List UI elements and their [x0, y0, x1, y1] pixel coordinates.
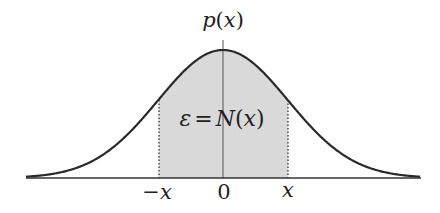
tick-label-neg-x: −x — [142, 180, 172, 204]
y-axis-label: p(x) — [202, 8, 244, 32]
tick-label-zero: 0 — [217, 180, 230, 204]
normal-distribution-diagram: p(x) ε=N(x) −x 0 x — [0, 0, 440, 213]
tick-label-x: x — [282, 178, 294, 202]
